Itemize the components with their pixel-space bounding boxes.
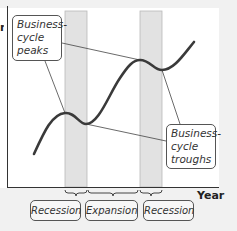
troughs-callout-line: troughs [171,153,211,166]
phase-label-recession-1: Recession [30,200,81,221]
peaks-callout: Business- cycle peaks [12,15,62,61]
y-axis-label-fragment: n [0,21,4,34]
brace-recession-2 [140,190,162,196]
brace-expansion [88,190,138,196]
trough-leader-2 [162,70,180,124]
peaks-callout-line: peaks [17,44,57,57]
peaks-callout-line: Business- [17,18,57,31]
troughs-callout-line: Business- [171,127,211,140]
phase-label-recession-2: Recession [143,200,194,221]
brace-recession-1 [65,190,87,196]
recession-band-2 [140,11,162,187]
x-axis-label: Year [197,189,224,202]
peak-leader-1 [45,61,65,113]
troughs-callout: Business- cycle troughs [166,124,216,169]
recession-band-1 [65,11,87,187]
troughs-callout-line: cycle [171,140,211,153]
peaks-callout-line: cycle [17,31,57,44]
phase-label-expansion: Expansion [85,200,138,221]
